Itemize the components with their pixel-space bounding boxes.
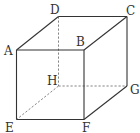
cube-diagram: A B C D E F G H <box>0 0 140 133</box>
vertex-label-c: C <box>126 4 135 18</box>
vertex-label-f: F <box>82 121 90 133</box>
hidden-edge-he <box>17 86 59 120</box>
vertex-label-e: E <box>5 121 14 133</box>
edge-da <box>17 17 59 51</box>
vertex-label-b: B <box>76 35 85 49</box>
vertex-label-a: A <box>3 44 13 58</box>
vertex-label-d: D <box>50 3 60 17</box>
vertex-label-h: H <box>47 74 57 88</box>
vertex-label-g: G <box>130 83 140 97</box>
edge-bc <box>84 17 127 51</box>
edge-fg <box>84 86 127 120</box>
